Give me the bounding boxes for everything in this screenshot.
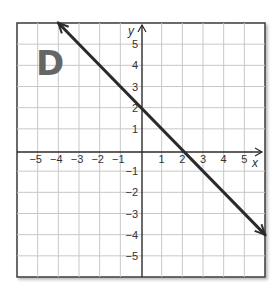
y-tick-label: 5 bbox=[132, 38, 138, 50]
x-tick-label: −1 bbox=[112, 153, 125, 165]
x-tick-label: −5 bbox=[29, 153, 42, 165]
x-axis-label: x bbox=[251, 156, 259, 170]
coordinate-graph: −5−4−3−2−112345 54321−1−2−3−4−5 x y D bbox=[0, 0, 278, 303]
y-tick-label: −1 bbox=[125, 165, 138, 177]
x-tick-label: −2 bbox=[91, 153, 104, 165]
y-tick-label: −5 bbox=[125, 250, 138, 262]
y-tick-label: −4 bbox=[125, 229, 138, 241]
y-tick-label: −2 bbox=[125, 186, 138, 198]
x-tick-label: −3 bbox=[71, 153, 84, 165]
y-tick-label: 3 bbox=[132, 81, 138, 93]
y-axis-label: y bbox=[127, 24, 135, 38]
x-tick-label: 2 bbox=[179, 153, 185, 165]
y-tick-label: 4 bbox=[132, 59, 138, 71]
y-tick-label: −3 bbox=[125, 208, 138, 220]
x-tick-label: 3 bbox=[200, 153, 206, 165]
y-tick-label: 1 bbox=[132, 123, 138, 135]
x-tick-label: −4 bbox=[50, 153, 63, 165]
x-tick-label: 1 bbox=[159, 153, 165, 165]
panel-label: D bbox=[36, 43, 64, 83]
x-tick-label: 4 bbox=[221, 153, 227, 165]
x-tick-label: 5 bbox=[241, 153, 247, 165]
